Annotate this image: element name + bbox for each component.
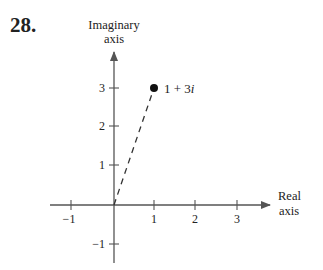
y-tick-label: −1 [92,237,105,251]
real-axis-label-line1: Real [278,189,301,203]
x-tick-label: 1 [151,212,157,226]
y-tick-label: 1 [99,158,105,172]
x-tick-label: 2 [192,212,198,226]
point-marker [150,84,158,92]
point-label-real: 1 + 3 [164,81,191,96]
real-axis-label-line2: axis [279,204,299,218]
imaginary-axis-label-line1: Imaginary [88,18,140,32]
x-tick-label: 3 [234,212,240,226]
vector-dashed-line [114,88,154,205]
complex-plane-diagram: 28. Imaginary axis Real axis −1 1 2 3 3 … [0,0,323,270]
problem-number: 28. [10,13,36,37]
imaginary-axis-label-line2: axis [104,32,124,46]
x-tick-label: −1 [63,212,76,226]
point-label-imag-unit: i [191,81,195,96]
point-label: 1 + 3i [164,81,195,96]
y-tick-label: 2 [99,119,105,133]
y-tick-label: 3 [99,81,105,95]
